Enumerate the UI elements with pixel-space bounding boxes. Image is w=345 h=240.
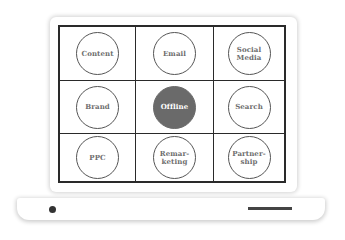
channel-circle-partnership: Partner- ship bbox=[228, 136, 271, 179]
grid-cell-brand: Brand bbox=[60, 81, 136, 134]
channel-label: Brand bbox=[85, 103, 110, 111]
grid-cell-partnership: Partner- ship bbox=[214, 134, 284, 181]
channel-label: Offline bbox=[161, 103, 189, 111]
channel-circle-offline-highlighted: Offline bbox=[153, 86, 196, 129]
power-led-icon bbox=[49, 206, 56, 213]
channel-circle-remarketing: Remar- keting bbox=[153, 136, 196, 179]
channel-label: PPC bbox=[89, 154, 105, 162]
channel-label: Content bbox=[81, 50, 113, 58]
drive-slot-icon bbox=[248, 207, 292, 210]
channel-label: Remar- keting bbox=[160, 150, 189, 166]
channel-label: Search bbox=[235, 103, 263, 111]
grid-cell-remarketing: Remar- keting bbox=[136, 134, 214, 181]
channel-circle-ppc: PPC bbox=[76, 136, 119, 179]
grid-cell-email: Email bbox=[136, 27, 214, 81]
channel-label: Email bbox=[163, 50, 186, 58]
channel-circle-email: Email bbox=[153, 32, 196, 75]
channel-grid: Content Email Social Media Brand Offline… bbox=[58, 25, 286, 183]
grid-cell-content: Content bbox=[60, 27, 136, 81]
channel-label: Partner- ship bbox=[232, 150, 265, 166]
channel-circle-search: Search bbox=[228, 86, 271, 129]
grid-cell-search: Search bbox=[214, 81, 284, 134]
grid-cell-offline: Offline bbox=[136, 81, 214, 134]
channel-circle-social-media: Social Media bbox=[228, 32, 271, 75]
channel-circle-brand: Brand bbox=[76, 86, 119, 129]
channel-label: Social Media bbox=[237, 46, 262, 62]
grid-cell-ppc: PPC bbox=[60, 134, 136, 181]
channel-circle-content: Content bbox=[76, 32, 119, 75]
grid-cell-social-media: Social Media bbox=[214, 27, 284, 81]
